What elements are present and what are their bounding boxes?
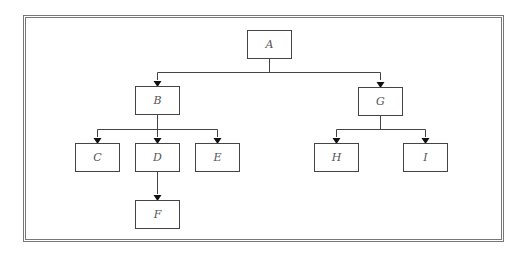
node-c-label: C [93,151,101,164]
node-b: B [135,86,180,115]
node-i-label: I [423,151,427,164]
node-c: C [75,143,120,172]
node-a-label: A [266,38,274,51]
node-d: D [135,143,180,172]
node-i: I [403,143,448,172]
node-f-label: F [154,208,162,221]
node-e-label: E [213,151,221,164]
node-h: H [314,143,359,172]
node-e: E [195,143,240,172]
node-g: G [358,87,403,116]
node-d-label: D [153,151,162,164]
node-a: A [247,30,292,59]
node-h-label: H [332,151,342,164]
node-g-label: G [376,95,385,108]
node-f: F [135,200,180,229]
node-b-label: B [153,94,161,107]
